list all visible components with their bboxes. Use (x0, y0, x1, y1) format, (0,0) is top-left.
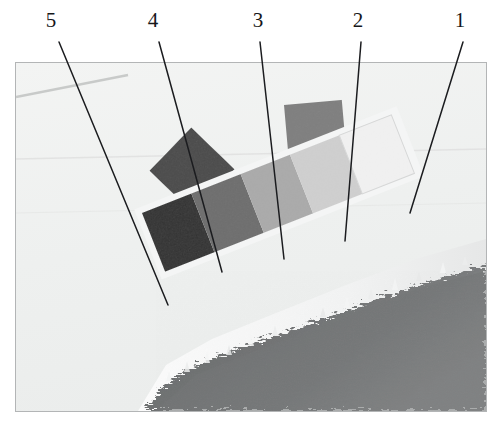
callout-label-4: 4 (140, 10, 166, 31)
photograph-panel (15, 62, 487, 412)
photograph-content (16, 63, 486, 411)
figure-root: 5 4 3 2 1 (0, 0, 502, 425)
film-grain-overlay (16, 63, 486, 411)
callout-label-1: 1 (447, 10, 473, 31)
callout-label-5: 5 (38, 10, 64, 31)
callout-label-3: 3 (245, 10, 271, 31)
callout-label-2: 2 (345, 10, 371, 31)
